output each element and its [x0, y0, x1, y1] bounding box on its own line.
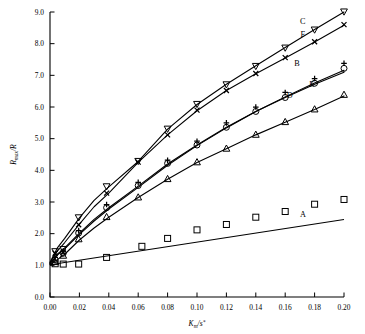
x-tick-label: 0.04 [102, 303, 115, 312]
axes: 0.01.02.03.04.05.06.07.08.09.00.000.020.… [9, 8, 351, 329]
figure-container: 0.01.02.03.04.05.06.07.08.09.00.000.020.… [0, 0, 365, 334]
x-tick-label: 0.06 [132, 303, 145, 312]
y-tick-label: 3.0 [35, 198, 45, 207]
data-point-square [312, 201, 318, 207]
data-point-square [165, 235, 171, 241]
data-point-plus [104, 202, 110, 208]
data-point-square [76, 261, 82, 267]
axis-lines [50, 12, 344, 297]
data-point-triangle-up [164, 175, 171, 181]
y-tick-label: 1.0 [35, 261, 45, 270]
x-axis-title: Km/s* [188, 319, 206, 330]
series-D: D [50, 91, 347, 265]
data-point-plus [341, 61, 347, 67]
y-tick-label: 7.0 [35, 71, 45, 80]
data-point-square [341, 196, 347, 202]
x-tick-label: 0.18 [308, 303, 321, 312]
data-point-triangle-down [311, 27, 318, 33]
y-tick-label: 5.0 [35, 134, 45, 143]
data-point-triangle-down [75, 215, 82, 221]
series-E: E [50, 70, 344, 263]
curve-label-E: E [309, 80, 314, 89]
x-tick-label: 0.08 [161, 303, 174, 312]
y-tick-label: 0.0 [35, 293, 45, 302]
curve-label-F: F [301, 30, 306, 39]
x-tick-label: 0.14 [249, 303, 262, 312]
series-curve [50, 70, 344, 263]
x-tick-label: 0.16 [279, 303, 292, 312]
y-tick-label: 4.0 [35, 166, 45, 175]
series-C: C [50, 9, 347, 262]
data-point-square [282, 209, 288, 215]
y-axis-title: Rmax/R [9, 144, 19, 166]
data-point-triangle-up [135, 194, 142, 200]
y-tick-label: 8.0 [35, 39, 45, 48]
curve-label-C: C [300, 17, 306, 26]
data-point-triangle-down [223, 82, 230, 88]
data-point-square [139, 243, 145, 249]
curve-label-A: A [300, 210, 306, 219]
y-tick-label: 2.0 [35, 229, 45, 238]
data-point-square [194, 227, 200, 233]
x-tick-label: 0.00 [44, 303, 57, 312]
data-point-cross [76, 222, 81, 227]
data-point-square [223, 221, 229, 227]
data-point-square [253, 214, 259, 220]
curve-label-B: B [294, 59, 300, 68]
series-curve [50, 72, 344, 264]
x-tick-label: 0.10 [191, 303, 204, 312]
data-point-triangle-down [252, 63, 259, 69]
series-curve [50, 96, 344, 265]
data-point-triangle-down [282, 45, 289, 51]
chart-canvas: 0.01.02.03.04.05.06.07.08.09.00.000.020.… [0, 0, 365, 334]
data-point-cross [342, 22, 347, 27]
x-tick-label: 0.02 [73, 303, 86, 312]
x-tick-label: 0.12 [220, 303, 233, 312]
data-point-cross [253, 71, 258, 76]
y-tick-label: 6.0 [35, 103, 45, 112]
series-line [50, 219, 344, 264]
x-tick-label: 0.20 [338, 303, 351, 312]
y-tick-label: 9.0 [35, 8, 45, 17]
data-point-cross [312, 39, 317, 44]
